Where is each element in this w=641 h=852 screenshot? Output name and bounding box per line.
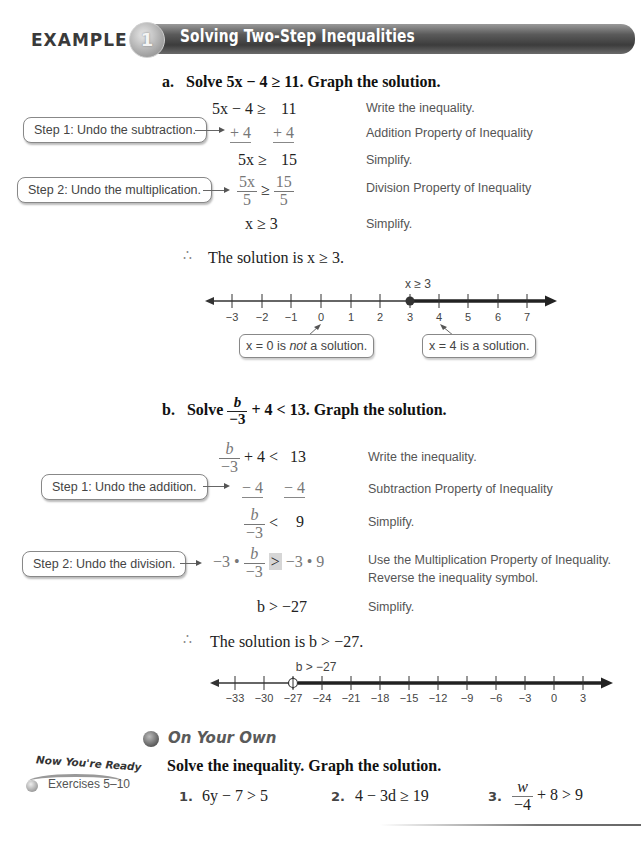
- part-a-row4-note: Division Property of Inequality: [366, 181, 531, 195]
- part-b-row4-note2: Reverse the inequality symbol.: [368, 571, 538, 585]
- part-a-row5-note: Simplify.: [366, 217, 412, 231]
- ready-ball-icon: [26, 780, 38, 792]
- tick-label: −9: [461, 692, 474, 704]
- part-a-row2-right: + 4: [273, 124, 294, 143]
- tick-label: −18: [371, 692, 390, 704]
- part-a-row3-left: 5x ≥: [238, 151, 267, 169]
- example-label: EXAMPLE: [31, 30, 128, 50]
- tick-label: −6: [490, 692, 503, 704]
- tick-label: 7: [524, 311, 530, 323]
- exercise-1-number: 1.: [179, 789, 193, 804]
- tick-label: −2: [256, 311, 269, 323]
- callout-is-solution: x = 4 is a solution.: [422, 334, 536, 358]
- part-b-step1-box: Step 1: Undo the addition.: [41, 474, 208, 500]
- part-a-row1-left: 5x − 4 ≥: [212, 100, 266, 118]
- tick-label: −24: [313, 692, 332, 704]
- part-b-row2-left: − 4: [242, 479, 263, 498]
- part-b-row3-note: Simplify.: [368, 515, 414, 529]
- reversed-symbol-highlight: >: [269, 553, 282, 570]
- part-b-label: b.: [162, 401, 175, 418]
- on-your-own-instruction: Solve the inequality. Graph the solution…: [167, 757, 441, 775]
- tick-label: −3: [226, 311, 239, 323]
- part-a-row2-left: + 4: [230, 124, 251, 143]
- part-b-step2-box: Step 2: Undo the division.: [22, 551, 186, 577]
- part-a-row3-note: Simplify.: [366, 153, 412, 167]
- part-b-row4-expression: −3 • b−3 > −3 • 9: [213, 546, 324, 581]
- part-a-label: a.: [162, 73, 174, 90]
- part-b-row2-note: Subtraction Property of Inequality: [368, 482, 553, 496]
- number-line-b: [205, 665, 625, 695]
- arrow-icon: [195, 130, 223, 131]
- part-a-step2-box: Step 2: Undo the multiplication.: [17, 177, 212, 203]
- example-number-badge: 1: [129, 22, 165, 58]
- part-b-row4-note: Use the Multiplication Property of Inequ…: [368, 553, 611, 567]
- therefore-icon: ∴: [183, 247, 191, 263]
- now-youre-ready-title: Now You're Ready: [36, 753, 142, 772]
- part-b-row3-right: 9: [296, 513, 304, 531]
- arrow-icon: [203, 486, 228, 487]
- part-b-row3-expression: b−3 <: [244, 507, 278, 542]
- part-b-row1-expression: b−3 + 4 <: [219, 441, 278, 476]
- tick-label: 0: [551, 692, 557, 704]
- exercise-3-number: 3.: [488, 789, 502, 804]
- part-b-prompt: b. Solve b−3 + 4 < 13. Graph the solutio…: [162, 395, 447, 428]
- tick-label: −27: [284, 692, 303, 704]
- exercises-link[interactable]: Exercises 5–10: [48, 777, 130, 791]
- arrow-icon: [203, 190, 228, 191]
- part-b-conclusion: The solution is b > −27.: [210, 633, 363, 651]
- exercise-2-number: 2.: [331, 789, 345, 804]
- tick-label: −15: [400, 692, 419, 704]
- part-a-row3-right: 15: [281, 151, 297, 169]
- tick-label: −30: [255, 692, 274, 704]
- tick-label: −33: [226, 692, 245, 704]
- on-your-own-ball-icon: [143, 731, 159, 747]
- tick-label: 6: [495, 311, 501, 323]
- part-a-row5: x ≥ 3: [245, 215, 278, 233]
- arrow-icon: [180, 563, 200, 564]
- part-a-prompt: a. Solve 5x − 4 ≥ 11. Graph the solution…: [162, 73, 440, 91]
- tick-label: −3: [519, 692, 532, 704]
- part-b-row1-note: Write the inequality.: [368, 450, 477, 464]
- number-line-a-label: x ≥ 3: [405, 277, 431, 291]
- tick-label: −12: [429, 692, 448, 704]
- tick-label: 3: [580, 692, 586, 704]
- callout-not-solution: x = 0 is not a solution.: [239, 334, 374, 358]
- part-a-row1-right: 11: [281, 100, 296, 118]
- part-a-row2-note: Addition Property of Inequality: [366, 126, 533, 140]
- example-title: Solving Two-Step Inequalities: [180, 26, 415, 46]
- bottom-divider: [380, 824, 641, 826]
- part-b-row1-right: 13: [290, 448, 306, 466]
- exercise-3-expression: w−4 + 8 > 9: [512, 779, 583, 814]
- number-line-b-label: b > −27: [296, 660, 337, 674]
- part-b-row5-note: Simplify.: [368, 600, 414, 614]
- exercise-2-expression: 4 − 3d ≥ 19: [355, 787, 429, 805]
- part-a-step1-box: Step 1: Undo the subtraction.: [23, 117, 207, 143]
- tick-label: 5: [465, 311, 471, 323]
- therefore-icon: ∴: [183, 631, 191, 647]
- part-b-row5: b > −27: [257, 598, 307, 616]
- tick-label: −1: [285, 311, 298, 323]
- closed-point-icon: [406, 297, 415, 306]
- part-a-expression: 5x − 4 ≥ 11.: [226, 73, 303, 90]
- part-b-row2-right: − 4: [284, 479, 305, 498]
- tick-label: −21: [342, 692, 361, 704]
- part-a-row1-note: Write the inequality.: [366, 101, 475, 115]
- part-a-conclusion: The solution is x ≥ 3.: [208, 249, 344, 267]
- on-your-own-title: On Your Own: [168, 729, 276, 747]
- exercise-1-expression: 6y − 7 > 5: [202, 787, 268, 805]
- part-a-row4-expression: 5x5 ≥ 155: [237, 174, 294, 209]
